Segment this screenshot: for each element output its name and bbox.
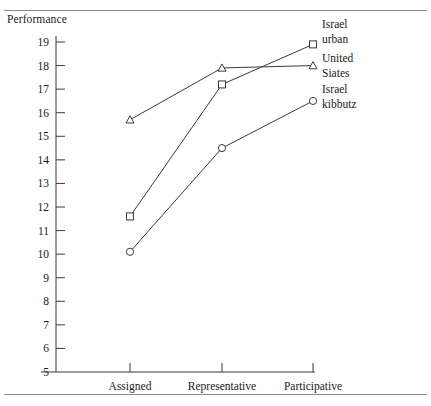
axis-path [41,36,315,372]
data-point-2-1 [218,144,225,151]
x-category-label-representative: Representative [188,380,256,393]
data-series-group [126,41,317,256]
legend-label-1-line2: Siates [322,67,350,79]
y-tick-label-19: 19 [38,36,50,48]
legend-label-1-line1: United [322,52,354,64]
series-line-1 [130,66,313,120]
x-axis-category-labels: AssignedRepresentativeParticipative [109,380,342,393]
legend-label-0-line2: urban [322,33,348,45]
y-tick-label-7: 7 [43,319,49,331]
chart-legend: IsraelurbanUnitedSiatesIsraelkibbutz [322,18,357,110]
line-chart-plot: 5678910111213141516171819 IsraelurbanUni… [0,0,431,406]
data-point-0-2 [310,41,317,48]
data-point-0-1 [219,81,226,88]
y-tick-label-15: 15 [38,130,50,142]
y-tick-label-8: 8 [43,295,49,307]
y-tick-label-14: 14 [38,154,50,166]
y-tick-label-6: 6 [43,342,49,354]
legend-label-2-line1: Israel [322,83,348,95]
y-tick-label-11: 11 [38,225,49,237]
y-tick-label-13: 13 [38,177,50,189]
data-point-1-0 [126,116,134,123]
y-tick-label-10: 10 [38,248,50,260]
data-point-2-2 [309,97,316,104]
y-tick-label-16: 16 [38,107,50,119]
data-point-0-0 [127,213,134,220]
x-axis-ticks [130,363,313,372]
y-tick-label-18: 18 [38,60,50,72]
y-axis-ticks: 5678910111213141516171819 [38,36,66,378]
y-tick-label-9: 9 [43,272,49,284]
data-point-2-0 [126,248,133,255]
legend-label-0-line1: Israel [322,18,348,30]
y-tick-label-12: 12 [38,201,50,213]
x-category-label-assigned: Assigned [109,380,152,393]
legend-label-2-line2: kibbutz [322,98,357,110]
chart-figure: Performance 5678910111213141516171819 Is… [0,0,431,406]
y-tick-label-5: 5 [43,366,49,378]
y-tick-label-17: 17 [38,83,50,95]
axis-lines [41,36,315,372]
x-category-label-participative: Participative [284,380,342,393]
